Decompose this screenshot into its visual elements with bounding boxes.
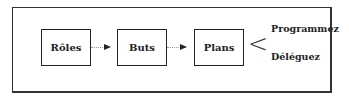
option-deleguez: Déléguez xyxy=(271,51,320,62)
arrowhead-icon xyxy=(104,44,111,50)
node-buts: Buts xyxy=(117,29,167,66)
option-programmez: Programmez xyxy=(271,23,339,34)
node-label: Plans xyxy=(204,42,235,53)
node-label: Buts xyxy=(129,42,155,53)
node-roles: Rôles xyxy=(41,29,91,66)
node-plans: Plans xyxy=(194,29,244,66)
node-label: Rôles xyxy=(51,42,82,53)
branch-symbol: < xyxy=(248,32,268,56)
arrowhead-icon xyxy=(180,44,187,50)
